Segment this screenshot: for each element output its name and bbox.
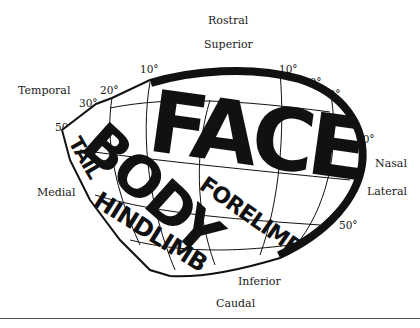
bottom-rule — [0, 318, 420, 319]
somatotopic-map-figure: FACE BODY FORELIMB TAIL HINDLIMB — [0, 0, 420, 328]
